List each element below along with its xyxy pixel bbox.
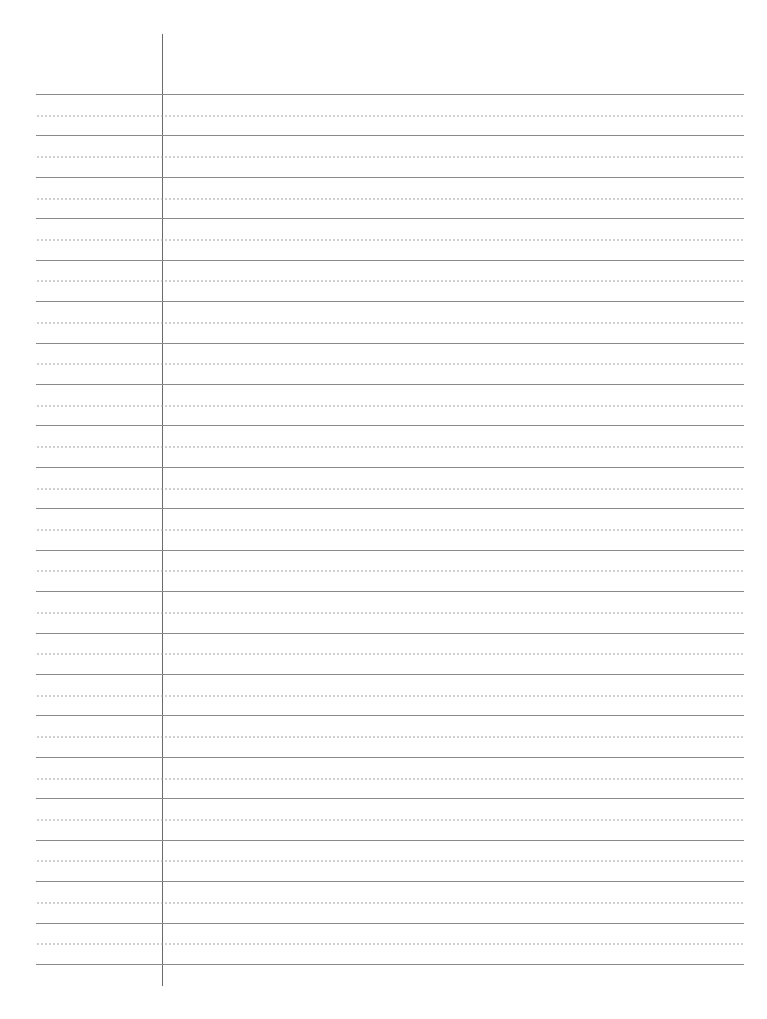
solid-rule-line (36, 425, 744, 426)
dotted-guide-line (36, 280, 744, 282)
dotted-guide-line (36, 529, 744, 531)
dotted-guide-line (36, 363, 744, 365)
solid-rule-line (36, 343, 744, 344)
solid-rule-line (36, 923, 744, 924)
dotted-guide-line (36, 819, 744, 821)
dotted-guide-line (36, 322, 744, 324)
solid-rule-line (36, 218, 744, 219)
dotted-guide-line (36, 695, 744, 697)
solid-rule-line (36, 550, 744, 551)
dotted-guide-line (36, 570, 744, 572)
dotted-guide-line (36, 943, 744, 945)
solid-rule-line (36, 840, 744, 841)
dotted-guide-line (36, 198, 744, 200)
solid-rule-line (36, 798, 744, 799)
solid-rule-line (36, 135, 744, 136)
solid-rule-line (36, 881, 744, 882)
solid-rule-line (36, 467, 744, 468)
dotted-guide-line (36, 115, 744, 117)
solid-rule-line (36, 260, 744, 261)
dotted-guide-line (36, 736, 744, 738)
solid-rule-line (36, 508, 744, 509)
dotted-guide-line (36, 902, 744, 904)
dotted-guide-line (36, 488, 744, 490)
dotted-guide-line (36, 778, 744, 780)
solid-rule-line (36, 384, 744, 385)
dotted-guide-line (36, 405, 744, 407)
dotted-guide-line (36, 156, 744, 158)
solid-rule-line (36, 591, 744, 592)
dotted-guide-line (36, 612, 744, 614)
solid-rule-line (36, 633, 744, 634)
solid-rule-line (36, 757, 744, 758)
solid-rule-line (36, 94, 744, 95)
solid-rule-line (36, 177, 744, 178)
dotted-guide-line (36, 446, 744, 448)
solid-rule-line (36, 964, 744, 965)
lined-paper-page (0, 0, 767, 1019)
dotted-guide-line (36, 239, 744, 241)
dotted-guide-line (36, 653, 744, 655)
solid-rule-line (36, 715, 744, 716)
solid-rule-line (36, 301, 744, 302)
solid-rule-line (36, 674, 744, 675)
dotted-guide-line (36, 860, 744, 862)
